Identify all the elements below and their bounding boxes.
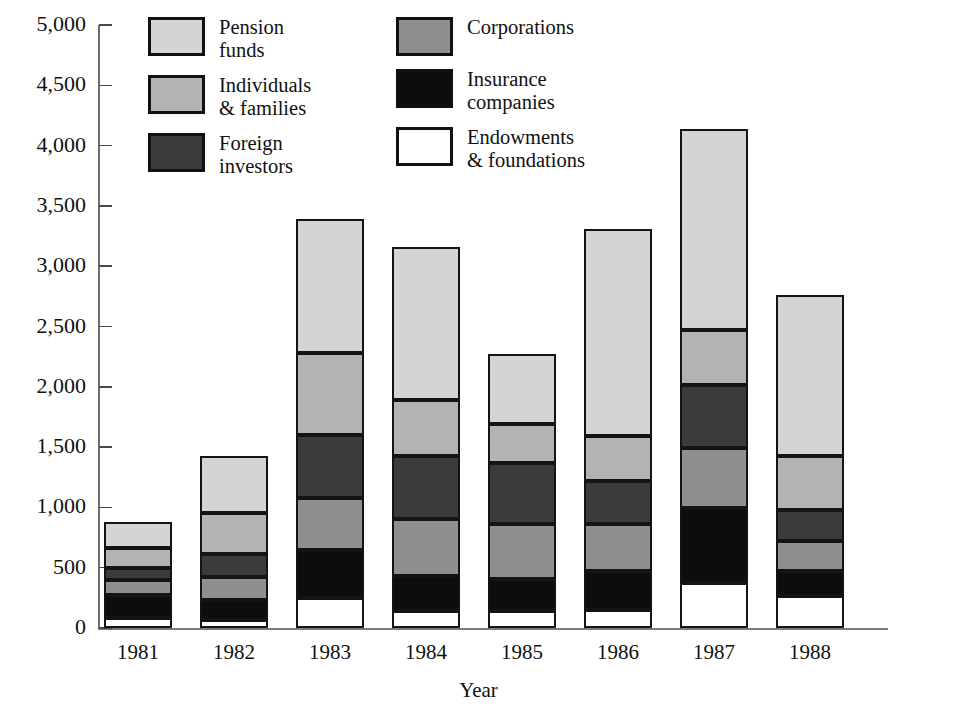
bar-1988 — [776, 295, 844, 628]
bar-segment-foreign-investors — [488, 463, 556, 523]
bar-segment-pension-funds — [392, 247, 460, 400]
bar-segment-pension-funds — [776, 295, 844, 455]
bar-segment-corporations — [488, 524, 556, 579]
bar-segment-foreign-investors — [392, 456, 460, 519]
bar-segment-insurance-companies — [680, 508, 748, 583]
bar-segment-insurance-companies — [296, 550, 364, 598]
bar-segment-insurance-companies — [776, 571, 844, 596]
bar-segment-endowments-foundations — [104, 618, 172, 628]
bar-segment-pension-funds — [488, 354, 556, 424]
bar-segment-insurance-companies — [104, 595, 172, 618]
bar-segment-individuals-families — [200, 513, 268, 554]
bar-segment-foreign-investors — [584, 481, 652, 523]
bar-segment-insurance-companies — [488, 579, 556, 611]
bar-segment-endowments-foundations — [584, 610, 652, 628]
bar-segment-corporations — [680, 448, 748, 508]
bar-1981 — [104, 522, 172, 628]
bar-segment-individuals-families — [680, 330, 748, 385]
bar-1986 — [584, 229, 652, 628]
bar-segment-pension-funds — [680, 129, 748, 330]
bar-segment-corporations — [392, 519, 460, 576]
bar-1983 — [296, 219, 364, 628]
bar-segment-individuals-families — [584, 436, 652, 482]
bar-segment-corporations — [584, 524, 652, 571]
bar-segment-endowments-foundations — [488, 611, 556, 628]
bar-segment-individuals-families — [392, 400, 460, 455]
bar-segment-endowments-foundations — [776, 596, 844, 628]
bar-segment-foreign-investors — [680, 385, 748, 448]
bar-segment-individuals-families — [488, 424, 556, 464]
bar-segment-endowments-foundations — [680, 583, 748, 628]
bar-segment-foreign-investors — [776, 510, 844, 540]
bar-segment-pension-funds — [584, 229, 652, 435]
bar-segment-corporations — [296, 498, 364, 550]
bar-segment-pension-funds — [296, 219, 364, 353]
bar-1985 — [488, 354, 556, 628]
stacked-bar-chart: Pension funds Individuals & families For… — [0, 0, 957, 714]
bar-1984 — [392, 247, 460, 628]
bar-segment-pension-funds — [200, 456, 268, 514]
bar-segment-endowments-foundations — [296, 598, 364, 628]
bar-1987 — [680, 129, 748, 628]
bar-segment-insurance-companies — [200, 600, 268, 620]
bar-1982 — [200, 456, 268, 628]
bar-segment-foreign-investors — [200, 554, 268, 577]
bar-segment-endowments-foundations — [392, 611, 460, 628]
bar-segment-insurance-companies — [584, 571, 652, 610]
bar-segment-individuals-families — [296, 353, 364, 435]
bar-segment-foreign-investors — [296, 435, 364, 498]
bar-segment-corporations — [200, 577, 268, 599]
bar-segment-endowments-foundations — [200, 620, 268, 628]
bar-segment-corporations — [776, 541, 844, 571]
bar-segment-individuals-families — [104, 548, 172, 568]
bar-segment-individuals-families — [776, 456, 844, 511]
bar-segment-pension-funds — [104, 522, 172, 548]
bars-layer — [0, 0, 957, 714]
bar-segment-corporations — [104, 580, 172, 595]
bar-segment-foreign-investors — [104, 568, 172, 580]
bar-segment-insurance-companies — [392, 576, 460, 611]
